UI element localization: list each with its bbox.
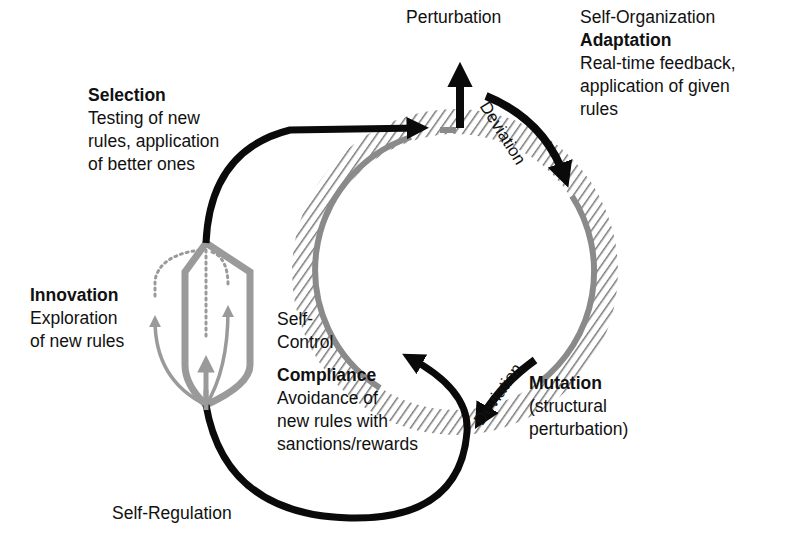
selection-block: Selection Testing of new rules, applicat… (88, 84, 219, 176)
adaptation-desc-1: Real-time feedback, (580, 52, 736, 75)
self-regulation-label: Self-Regulation (112, 502, 232, 525)
adaptation-desc-3: rules (580, 98, 736, 121)
self-control-line-2: Control (277, 331, 333, 354)
self-control-block: Self- Control (277, 308, 333, 354)
mutation-desc-2: perturbation) (529, 418, 628, 441)
selection-title: Selection (88, 84, 219, 107)
compliance-desc-1: Avoidance of (277, 387, 418, 410)
selection-desc-1: Testing of new (88, 107, 219, 130)
compliance-title: Compliance (277, 364, 418, 387)
adaptation-desc-2: application of given (580, 75, 736, 98)
compliance-desc-3: sanctions/rewards (277, 433, 418, 456)
innovation-desc-1: Exploration (30, 307, 124, 330)
mutation-block: Mutation (structural perturbation) (529, 372, 628, 441)
adaptation-title: Adaptation (580, 29, 736, 52)
adaptation-block: Self-Organization Adaptation Real-time f… (580, 6, 736, 121)
selection-desc-3: of better ones (88, 153, 219, 176)
compliance-desc-2: new rules with (277, 410, 418, 433)
self-control-line-1: Self- (277, 308, 333, 331)
innovation-branches (155, 243, 250, 405)
perturbation-text: Perturbation (406, 6, 501, 29)
selection-desc-2: rules, application (88, 130, 219, 153)
innovation-block: Innovation Exploration of new rules (30, 284, 124, 353)
perturbation-label: Perturbation (406, 6, 501, 29)
self-regulation-text: Self-Regulation (112, 502, 232, 525)
mutation-title: Mutation (529, 372, 628, 395)
innovation-title: Innovation (30, 284, 124, 307)
innovation-desc-2: of new rules (30, 330, 124, 353)
compliance-block: Compliance Avoidance of new rules with s… (277, 364, 418, 456)
mutation-desc-1: (structural (529, 395, 628, 418)
self-organization-text: Self-Organization (580, 6, 736, 29)
